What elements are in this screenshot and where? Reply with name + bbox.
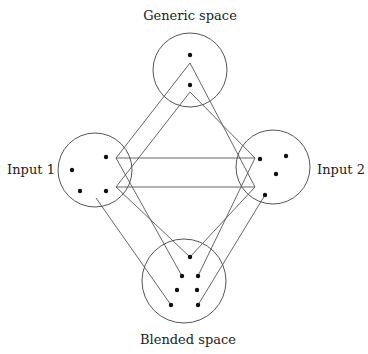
link-generic-to-input1-inner xyxy=(116,92,190,187)
input2-space-circle xyxy=(236,130,310,204)
space-elements xyxy=(70,53,288,307)
blended-element-dot xyxy=(175,288,179,292)
input1-element-dot xyxy=(104,155,108,159)
blended-element-dot xyxy=(196,303,200,307)
input1-element-dot xyxy=(78,189,82,193)
mental-spaces xyxy=(58,33,310,323)
blended-element-dot xyxy=(195,288,199,292)
input2-element-dot xyxy=(274,172,278,176)
blended-space-label: Blended space xyxy=(140,332,236,347)
input2-element-dot xyxy=(284,154,288,158)
generic-element-dot xyxy=(188,53,192,57)
generic-element-dot xyxy=(188,83,192,87)
blended-element-dot xyxy=(169,303,173,307)
blended-element-dot xyxy=(196,274,200,278)
input1-space-circle xyxy=(58,133,132,207)
link-generic-to-input2-inner xyxy=(190,92,255,158)
input1-element-dot xyxy=(104,189,108,193)
blended-element-dot xyxy=(188,255,192,259)
input2-element-dot xyxy=(263,193,267,197)
blending-diagram: Generic space Input 1 Input 2 Blended sp… xyxy=(0,0,368,354)
input2-label: Input 2 xyxy=(317,162,365,177)
generic-space-circle xyxy=(153,33,227,107)
link-input1-to-blend-b xyxy=(116,187,190,257)
link-input2-to-blend-a xyxy=(190,187,255,257)
generic-space-label: Generic space xyxy=(143,8,237,23)
input1-label: Input 1 xyxy=(7,162,55,177)
blended-element-dot xyxy=(180,274,184,278)
link-input2-to-blend-c xyxy=(198,195,265,305)
link-generic-to-input1-outer xyxy=(116,63,190,158)
input2-element-dot xyxy=(258,157,262,161)
link-input1-to-blend-c xyxy=(96,198,171,305)
input1-element-dot xyxy=(70,168,74,172)
